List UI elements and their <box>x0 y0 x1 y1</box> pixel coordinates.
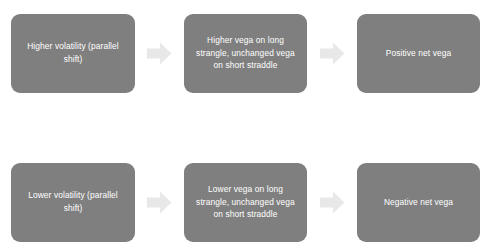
arrow-higher-2 <box>307 42 357 65</box>
node-higher-volatility: Higher volatility (parallel shift) <box>11 14 135 93</box>
node-lower-volatility-label: Lower volatility (parallel shift) <box>19 189 127 214</box>
arrow-lower-2 <box>307 191 357 214</box>
node-lower-vega: Lower vega on long strangle, unchanged v… <box>184 163 307 242</box>
flow-row-lower-volatility: Lower volatility (parallel shift) Lower … <box>0 162 494 242</box>
node-positive-net-vega: Positive net vega <box>357 14 480 93</box>
arrow-right-icon <box>320 191 345 214</box>
arrow-lower-1 <box>135 191 184 214</box>
node-higher-volatility-label: Higher volatility (parallel shift) <box>19 40 127 65</box>
arrow-right-icon <box>320 42 345 65</box>
node-positive-net-vega-label: Positive net vega <box>386 47 451 60</box>
arrow-right-icon <box>147 42 172 65</box>
node-higher-vega: Higher vega on long strangle, unchanged … <box>184 14 307 93</box>
node-lower-vega-label: Lower vega on long strangle, unchanged v… <box>192 183 299 221</box>
flow-row-higher-volatility: Higher volatility (parallel shift) Highe… <box>0 13 494 93</box>
arrow-higher-1 <box>135 42 184 65</box>
node-lower-volatility: Lower volatility (parallel shift) <box>11 163 135 242</box>
node-higher-vega-label: Higher vega on long strangle, unchanged … <box>192 34 299 72</box>
node-negative-net-vega-label: Negative net vega <box>384 196 453 209</box>
diagram-canvas: Higher volatility (parallel shift) Highe… <box>0 0 494 250</box>
node-negative-net-vega: Negative net vega <box>357 163 480 242</box>
arrow-right-icon <box>147 191 172 214</box>
